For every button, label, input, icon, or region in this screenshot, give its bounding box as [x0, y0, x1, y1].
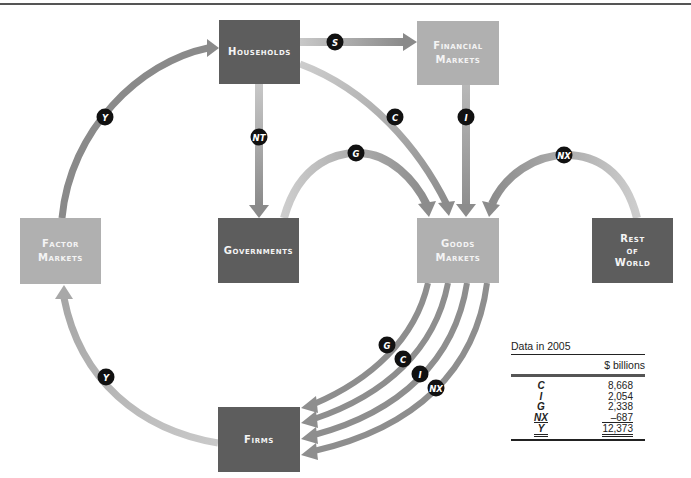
node-factor-markets-label-2: Markets [38, 251, 83, 265]
table-caption: Data in 2005 [511, 340, 645, 355]
node-goods-markets: Goods Markets [417, 218, 499, 283]
table-row: C 8,668 [511, 381, 645, 392]
node-governments-label: Governments [224, 244, 293, 258]
node-financial-markets-label-1: Financial [433, 39, 483, 53]
node-households-label: Households [228, 45, 291, 59]
badge-s: S [327, 34, 344, 51]
badge-nt: NT [251, 129, 268, 146]
row-value: 2,338 [571, 402, 645, 413]
node-factor-markets: Factor Markets [20, 218, 101, 284]
arrow-i-financial-to-goods [456, 85, 476, 217]
badge-c-bottom: C [395, 351, 412, 368]
arrow-s-households-to-financial [300, 33, 417, 51]
node-rest-of-world-label-2: of [627, 245, 639, 257]
table-row: G 2,338 [511, 402, 645, 413]
badge-nx-top: NX [556, 147, 573, 164]
arrow-nx-rest-of-world-to-goods [482, 155, 637, 218]
total-key-text: Y [534, 422, 549, 437]
badge-i-bottom: I [412, 366, 429, 383]
node-households: Households [219, 20, 300, 84]
arrow-c-households-to-goods [300, 64, 455, 216]
total-value-text: 12,373 [602, 422, 633, 437]
total-value: 12,373 [571, 424, 645, 435]
node-goods-markets-label-2: Markets [436, 251, 481, 265]
arrow-y-firms-to-factor [55, 285, 218, 443]
badge-g-top: G [348, 145, 365, 162]
badge-i-top: I [458, 109, 475, 126]
badge-g-bottom: G [379, 337, 396, 354]
table-body: C 8,668 I 2,054 G 2,338 NX –687 Y 12,373 [511, 377, 645, 441]
node-firms-label: Firms [244, 433, 274, 447]
row-value: 8,668 [571, 381, 645, 392]
total-key: Y [511, 424, 571, 435]
node-financial-markets-label-2: Markets [436, 53, 481, 67]
arrow-g-governments-to-goods [284, 153, 436, 218]
badge-y-top: Y [97, 109, 114, 126]
node-goods-markets-label-1: Goods [441, 237, 475, 251]
node-rest-of-world: Rest of World [592, 218, 673, 283]
arrow-y-factor-to-households [62, 39, 219, 218]
node-factor-markets-label-1: Factor [42, 237, 79, 251]
arrow-c-goods-to-firms [301, 283, 448, 428]
node-governments: Governments [218, 218, 299, 283]
badge-y-bottom: Y [98, 369, 115, 386]
arrow-nt-households-to-governments [249, 84, 269, 218]
table-total-row: Y 12,373 [511, 424, 645, 435]
row-key: G [511, 402, 571, 413]
node-rest-of-world-label-1: Rest [620, 233, 645, 245]
badge-c-top: C [387, 109, 404, 126]
badge-nx-bottom: NX [428, 380, 445, 397]
row-key: C [511, 381, 571, 392]
node-rest-of-world-label-3: World [615, 257, 651, 269]
node-financial-markets: Financial Markets [417, 21, 499, 85]
node-firms: Firms [218, 407, 300, 472]
data-table: Data in 2005 $ billions C 8,668 I 2,054 … [511, 340, 645, 441]
table-unit-header: $ billions [511, 355, 645, 377]
